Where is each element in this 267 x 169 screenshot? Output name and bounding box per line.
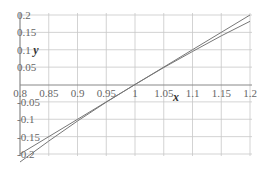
y-tick-label: 0.1 (17, 44, 31, 56)
x-tick-label: 0.85 (39, 87, 59, 99)
line-chart: 0.80.850.90.9511.051.11.151.2 0.20.150.1… (0, 0, 267, 169)
x-tick-label: 1.15 (212, 87, 232, 99)
y-axis-label: y (31, 43, 39, 57)
y-tick-label: 0.15 (17, 26, 37, 38)
y-tick-label: -0.15 (17, 131, 40, 143)
y-tick-label: -0.1 (17, 113, 34, 125)
x-tick-label: 1.1 (186, 87, 200, 99)
x-tick-label: 0.9 (71, 87, 85, 99)
x-tick-labels: 0.80.850.90.9511.051.11.151.2 (13, 87, 257, 99)
y-tick-label: 0.05 (17, 61, 37, 73)
y-tick-label: -0.05 (17, 96, 40, 108)
x-tick-label: 1.05 (154, 87, 174, 99)
x-tick-label: 1.2 (243, 87, 257, 99)
x-tick-label: 1 (132, 87, 138, 99)
x-axis-label: x (172, 90, 179, 104)
y-tick-label: 0.2 (17, 9, 31, 21)
